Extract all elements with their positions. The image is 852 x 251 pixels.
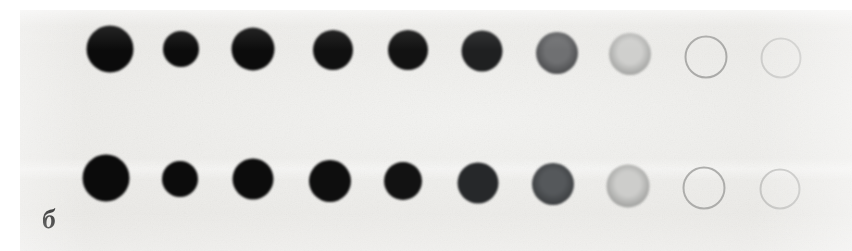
- spot-row-a-top-10: [761, 38, 802, 79]
- spot-row-b-bottom-1: [83, 155, 130, 202]
- spot-row-b-bottom-9: [683, 167, 726, 210]
- spot-row-b-bottom-6: [458, 163, 499, 204]
- paper-grain-texture: [20, 10, 852, 251]
- spot-row-a-top-8: [609, 33, 651, 75]
- spot-row-a-top-1: [87, 26, 134, 73]
- spot-row-a-top-6: [462, 31, 503, 72]
- photographic-plate: б: [20, 10, 852, 251]
- spot-row-b-bottom-3: [233, 159, 274, 200]
- spot-row-a-top-7: [536, 32, 578, 74]
- spot-row-a-top-4: [313, 30, 353, 70]
- spot-row-a-top-2: [163, 31, 199, 67]
- spot-row-b-bottom-5: [384, 162, 422, 200]
- spot-row-b-bottom-7: [532, 163, 574, 205]
- panel-label-b: б: [41, 205, 57, 233]
- spot-row-a-top-5: [388, 30, 428, 70]
- spot-row-a-top-3: [232, 28, 275, 71]
- scan-exposure-band: [20, 158, 852, 180]
- figure-root: б: [0, 0, 852, 251]
- spot-row-b-bottom-2: [162, 161, 198, 197]
- spot-row-a-top-9: [685, 36, 728, 79]
- spot-row-b-bottom-10: [760, 169, 801, 210]
- spot-row-b-bottom-8: [607, 165, 650, 208]
- spot-row-b-bottom-4: [309, 160, 351, 202]
